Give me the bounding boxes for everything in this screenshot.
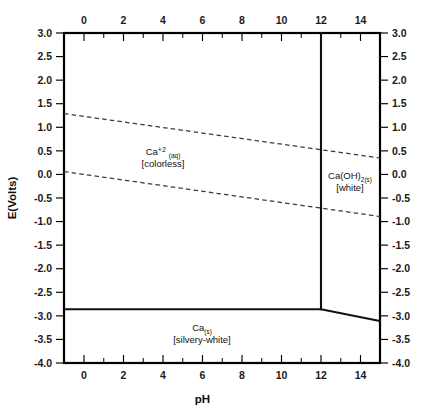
right-tick-label-2.5: 2.5 bbox=[392, 50, 407, 62]
top-tick-label-10: 10 bbox=[276, 14, 288, 26]
annotation-2-species-base: Ca bbox=[192, 322, 205, 333]
bottom-tick-label-10: 10 bbox=[276, 369, 288, 381]
right-tick-label--2.5: -2.5 bbox=[392, 286, 410, 298]
top-axis-ticks bbox=[84, 33, 361, 41]
bottom-tick-label-0: 0 bbox=[81, 369, 87, 381]
right-tick-label-0.5: 0.5 bbox=[392, 145, 407, 157]
left-tick-label--2.0: -2.0 bbox=[34, 262, 52, 274]
pourbaix-plot-svg: 0 2 4 6 8 10 12 14 0 bbox=[0, 0, 422, 412]
left-tick-label--1.0: -1.0 bbox=[34, 215, 52, 227]
right-tick-label-0.0: 0.0 bbox=[392, 168, 407, 180]
right-tick-label--1.5: -1.5 bbox=[392, 239, 410, 251]
top-tick-label-8: 8 bbox=[239, 14, 245, 26]
left-tick-label--4.0: -4.0 bbox=[34, 357, 52, 369]
right-tick-label--1.0: -1.0 bbox=[392, 215, 410, 227]
x-axis-title: pH bbox=[195, 393, 210, 405]
annotation-0-descriptor: [colorless] bbox=[142, 158, 185, 169]
bottom-tick-label-6: 6 bbox=[200, 369, 206, 381]
left-tick-label--2.5: -2.5 bbox=[34, 286, 52, 298]
pourbaix-diagram-calcium: 0 2 4 6 8 10 12 14 0 bbox=[0, 0, 422, 412]
right-tick-label--0.5: -0.5 bbox=[392, 192, 410, 204]
series-water-oxidation-boundary bbox=[64, 114, 380, 158]
annotation-1-descriptor: [white] bbox=[336, 182, 363, 193]
annotation-calcium-hydroxide-region: Ca(OH)2(s) [white] bbox=[328, 170, 372, 193]
top-tick-label-2: 2 bbox=[121, 14, 127, 26]
top-tick-label-6: 6 bbox=[200, 14, 206, 26]
top-tick-label-0: 0 bbox=[81, 14, 87, 26]
left-axis-tick-labels: 3.0 2.5 2.0 1.5 1.0 0.5 0.0 -0.5 -1.0 -1… bbox=[34, 27, 52, 369]
annotation-0-species-base: Ca bbox=[146, 146, 159, 157]
right-tick-label--3.5: -3.5 bbox=[392, 333, 410, 345]
bottom-tick-label-4: 4 bbox=[160, 369, 166, 381]
top-tick-label-4: 4 bbox=[160, 14, 166, 26]
left-tick-label--0.5: -0.5 bbox=[34, 192, 52, 204]
y-axis-title: E(Volts) bbox=[6, 177, 18, 220]
bottom-tick-label-12: 12 bbox=[315, 369, 327, 381]
bottom-tick-label-2: 2 bbox=[121, 369, 127, 381]
bottom-axis-ticks bbox=[84, 355, 361, 363]
right-tick-label--4.0: -4.0 bbox=[392, 357, 410, 369]
left-tick-label-2.5: 2.5 bbox=[37, 50, 52, 62]
right-tick-label-1.5: 1.5 bbox=[392, 97, 407, 109]
left-tick-label--3.5: -3.5 bbox=[34, 333, 52, 345]
left-tick-label--1.5: -1.5 bbox=[34, 239, 52, 251]
left-tick-label--3.0: -3.0 bbox=[34, 310, 52, 322]
plot-frame bbox=[64, 33, 380, 363]
right-tick-label-3.0: 3.0 bbox=[392, 27, 407, 39]
right-tick-label-1.0: 1.0 bbox=[392, 121, 407, 133]
bottom-tick-label-8: 8 bbox=[239, 369, 245, 381]
right-axis-tick-labels: 3.0 2.5 2.0 1.5 1.0 0.5 0.0 -0.5 -1.0 -1… bbox=[392, 27, 410, 369]
bottom-axis-tick-labels: 0 2 4 6 8 10 12 14 bbox=[81, 369, 366, 381]
top-tick-label-14: 14 bbox=[355, 14, 367, 26]
left-tick-label-2.0: 2.0 bbox=[37, 74, 52, 86]
top-axis-tick-labels: 0 2 4 6 8 10 12 14 bbox=[81, 14, 366, 26]
left-tick-label-1.5: 1.5 bbox=[37, 97, 52, 109]
series-ca-metal-upper-boundary bbox=[64, 309, 380, 321]
left-tick-label-1.0: 1.0 bbox=[37, 121, 52, 133]
left-tick-label-3.0: 3.0 bbox=[37, 27, 52, 39]
right-axis-ticks bbox=[380, 33, 388, 363]
left-tick-label-0.0: 0.0 bbox=[37, 168, 52, 180]
top-tick-label-12: 12 bbox=[315, 14, 327, 26]
annotation-1-species-base: Ca(OH) bbox=[328, 170, 361, 181]
annotation-0-species-sup: +2 bbox=[158, 146, 166, 153]
right-tick-label--3.0: -3.0 bbox=[392, 310, 410, 322]
left-tick-label-0.5: 0.5 bbox=[37, 145, 52, 157]
annotation-aqueous-calcium-ion-region: Ca+2(aq) [colorless] bbox=[142, 146, 185, 170]
left-axis-ticks bbox=[56, 33, 64, 363]
annotation-2-descriptor: [silvery-white] bbox=[173, 334, 231, 345]
annotation-calcium-metal-region: Ca(s) [silvery-white] bbox=[173, 322, 231, 345]
bottom-tick-label-14: 14 bbox=[355, 369, 367, 381]
right-tick-label--2.0: -2.0 bbox=[392, 262, 410, 274]
right-tick-label-2.0: 2.0 bbox=[392, 74, 407, 86]
